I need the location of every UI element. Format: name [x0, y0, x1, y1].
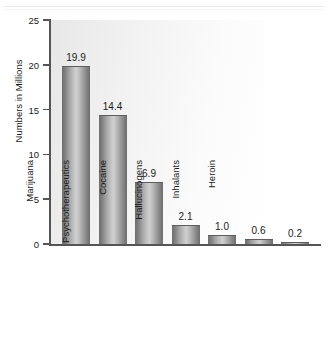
x-axis-category-label: Inhalants [171, 160, 181, 252]
bar-chart-figure: 0510152025 Numbers in Millions 19.914.46… [0, 0, 328, 346]
x-axis-category-label: Psychotherapeutics [61, 160, 71, 252]
bar [245, 239, 273, 244]
bar-value-label: 14.4 [93, 102, 133, 112]
x-axis-category-label: Hallucinogens [134, 160, 144, 252]
bar-value-label: 0.6 [239, 226, 279, 236]
bar-value-label: 19.9 [56, 53, 96, 63]
bar [281, 242, 309, 245]
x-axis-category-label: Marijuana [25, 160, 35, 252]
bar-value-label: 0.2 [275, 229, 315, 239]
x-axis-category-label: Cocaine [98, 160, 108, 252]
x-axis-category-label: Heroin [207, 160, 217, 252]
bar-series: 19.914.46.92.11.00.60.2 [0, 0, 328, 346]
